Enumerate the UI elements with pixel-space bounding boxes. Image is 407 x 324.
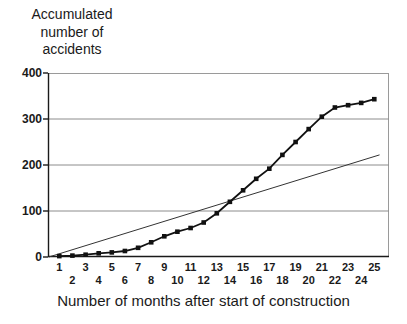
y-tick-label-100: 100 bbox=[8, 205, 42, 217]
y-tick-label-300: 300 bbox=[8, 113, 42, 125]
data-point-month-20 bbox=[306, 127, 311, 132]
data-point-month-23 bbox=[346, 103, 351, 108]
data-point-month-21 bbox=[320, 114, 325, 119]
x-tick-label-14: 14 bbox=[219, 274, 241, 286]
y-tick-label-400: 400 bbox=[8, 67, 42, 79]
x-tick-label-12: 12 bbox=[193, 274, 215, 286]
data-point-month-12 bbox=[201, 220, 206, 225]
data-point-month-13 bbox=[215, 211, 220, 216]
reference-line bbox=[49, 155, 380, 257]
x-tick-label-6: 6 bbox=[114, 274, 136, 286]
x-axis-title: Number of months after start of construc… bbox=[0, 292, 407, 309]
data-point-month-1 bbox=[57, 254, 62, 259]
x-tick-label-9: 9 bbox=[153, 261, 175, 273]
accident-curve bbox=[59, 99, 374, 256]
x-tick-label-4: 4 bbox=[88, 274, 110, 286]
x-tick-label-18: 18 bbox=[271, 274, 293, 286]
data-point-month-14 bbox=[228, 200, 233, 205]
chart-canvas bbox=[42, 73, 391, 267]
x-tick-label-15: 15 bbox=[232, 261, 254, 273]
data-point-month-17 bbox=[267, 166, 272, 171]
x-tick-label-11: 11 bbox=[180, 261, 202, 273]
data-point-month-18 bbox=[280, 153, 285, 158]
y-tick-label-200: 200 bbox=[8, 159, 42, 171]
plot-area bbox=[48, 73, 389, 257]
data-point-month-16 bbox=[254, 177, 259, 182]
x-tick-label-19: 19 bbox=[285, 261, 307, 273]
x-tick-label-17: 17 bbox=[258, 261, 280, 273]
data-point-month-6 bbox=[123, 249, 128, 254]
x-tick-label-23: 23 bbox=[337, 261, 359, 273]
data-point-month-11 bbox=[188, 226, 193, 231]
x-tick-label-16: 16 bbox=[245, 274, 267, 286]
data-point-month-15 bbox=[241, 188, 246, 193]
data-point-month-7 bbox=[136, 246, 141, 251]
x-tick-label-2: 2 bbox=[61, 274, 83, 286]
y-tick-label-0: 0 bbox=[8, 251, 42, 263]
x-tick-label-24: 24 bbox=[350, 274, 372, 286]
y-axis-title: Accumulated number of accidents bbox=[16, 6, 128, 59]
x-tick-label-22: 22 bbox=[324, 274, 346, 286]
data-point-month-3 bbox=[83, 252, 88, 257]
x-tick-label-20: 20 bbox=[298, 274, 320, 286]
x-tick-label-8: 8 bbox=[140, 274, 162, 286]
x-tick-label-10: 10 bbox=[166, 274, 188, 286]
x-tick-label-1: 1 bbox=[48, 261, 70, 273]
x-tick-label-25: 25 bbox=[363, 261, 385, 273]
data-point-month-10 bbox=[175, 229, 180, 234]
x-tick-label-5: 5 bbox=[101, 261, 123, 273]
data-point-month-9 bbox=[162, 234, 167, 239]
data-point-month-2 bbox=[70, 253, 75, 258]
x-tick-label-21: 21 bbox=[311, 261, 333, 273]
x-tick-label-7: 7 bbox=[127, 261, 149, 273]
data-point-month-24 bbox=[359, 101, 364, 106]
data-point-month-5 bbox=[110, 250, 115, 255]
data-point-month-19 bbox=[293, 140, 298, 145]
data-point-month-22 bbox=[333, 105, 338, 110]
x-tick-label-3: 3 bbox=[75, 261, 97, 273]
data-point-month-25 bbox=[372, 97, 377, 102]
data-point-month-8 bbox=[149, 240, 154, 245]
chart-figure: Accumulated number of accidents 01002003… bbox=[0, 0, 407, 324]
data-point-month-4 bbox=[96, 251, 101, 256]
x-tick-label-13: 13 bbox=[206, 261, 228, 273]
